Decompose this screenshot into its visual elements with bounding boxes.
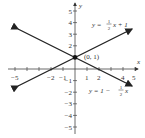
x-tick-label: 4 bbox=[121, 74, 125, 82]
x-tick-label: 2 bbox=[97, 74, 101, 82]
y-tick-label: 4 bbox=[69, 19, 73, 27]
equation-2: y = 1 − 1 2 x bbox=[88, 85, 129, 97]
y-tick-label: −2 bbox=[65, 89, 73, 97]
coordinate-plane: y x −5 −2 −1 1 2 4 5 5 4 3 2 −1 −2 −3 −4… bbox=[0, 0, 145, 138]
y-tick-label: 5 bbox=[69, 8, 73, 16]
svg-text:y = 1 −: y = 1 − bbox=[88, 87, 111, 95]
svg-text:x + 1: x + 1 bbox=[112, 21, 128, 29]
y-tick-label: 3 bbox=[69, 31, 73, 39]
svg-text:2: 2 bbox=[120, 92, 123, 97]
x-axis bbox=[8, 67, 138, 71]
svg-text:x: x bbox=[124, 87, 129, 95]
y-tick-label: −5 bbox=[65, 124, 73, 132]
svg-text:2: 2 bbox=[108, 26, 111, 31]
y-tick-label: −4 bbox=[65, 112, 73, 120]
x-axis-label: x bbox=[136, 58, 141, 66]
svg-text:y =: y = bbox=[91, 21, 102, 29]
y-axis-label: y bbox=[78, 2, 83, 10]
y-axis bbox=[73, 3, 77, 134]
y-tick-label: −1 bbox=[65, 77, 73, 85]
x-tick-label: 1 bbox=[85, 74, 89, 82]
intersection-point bbox=[73, 55, 78, 60]
y-tick-label: −3 bbox=[65, 100, 73, 108]
x-tick-label: −2 bbox=[47, 74, 55, 82]
x-tick-label: 5 bbox=[132, 74, 136, 82]
svg-text:1: 1 bbox=[108, 19, 111, 24]
point-label: (0, 1) bbox=[84, 53, 100, 61]
svg-text:1: 1 bbox=[120, 85, 123, 90]
equation-1: y = 1 2 x + 1 bbox=[91, 19, 128, 31]
y-tick-label: 2 bbox=[69, 42, 73, 50]
x-tick-label: −5 bbox=[11, 74, 19, 82]
